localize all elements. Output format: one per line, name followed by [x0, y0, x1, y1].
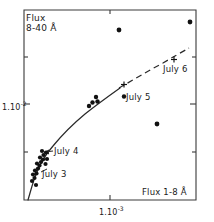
chart-corner-title-line2: 8-40 Å — [26, 24, 56, 33]
data-point-outlier — [188, 20, 193, 25]
annotation-july-6: July 6 — [163, 65, 188, 74]
y-tick-mantissa: 1.10 — [2, 103, 21, 112]
data-point — [90, 100, 94, 104]
x-axis-tick-label: 1.10-3 — [99, 206, 124, 217]
data-point — [35, 161, 39, 165]
x-tick-exponent: -3 — [118, 205, 124, 212]
data-point-outlier — [155, 122, 160, 127]
annotation-july-3: July 3 — [42, 170, 67, 179]
data-point — [44, 150, 48, 154]
x-axis-title: Flux 1-8 Å — [142, 188, 187, 197]
annotation-july-4: July 4 — [54, 147, 79, 156]
data-point — [87, 104, 91, 108]
data-point — [45, 157, 49, 161]
angstrom-symbol: Å — [181, 187, 187, 197]
data-point — [38, 155, 42, 159]
scientific-figure: Flux 8-40 Å 1.10-2 1.10-3 Flux 1-8 Å Jul… — [0, 0, 214, 222]
data-point — [43, 162, 47, 166]
fit-curve-solid — [28, 88, 120, 200]
data-point-outlier — [117, 28, 122, 33]
x-axis-title-text: Flux 1-8 — [142, 187, 181, 197]
y-tick-exponent: -2 — [21, 100, 27, 107]
data-points-filled — [30, 20, 193, 187]
corner-title-range: 8-40 — [26, 23, 50, 33]
y-axis-tick-label: 1.10-2 — [2, 101, 27, 112]
data-point — [40, 149, 44, 153]
annotation-july-5: July 5 — [126, 93, 151, 102]
x-tick-mantissa: 1.10 — [99, 208, 118, 217]
data-point — [94, 95, 98, 99]
angstrom-symbol: Å — [50, 23, 56, 33]
data-point — [34, 183, 38, 187]
data-point — [95, 99, 99, 103]
